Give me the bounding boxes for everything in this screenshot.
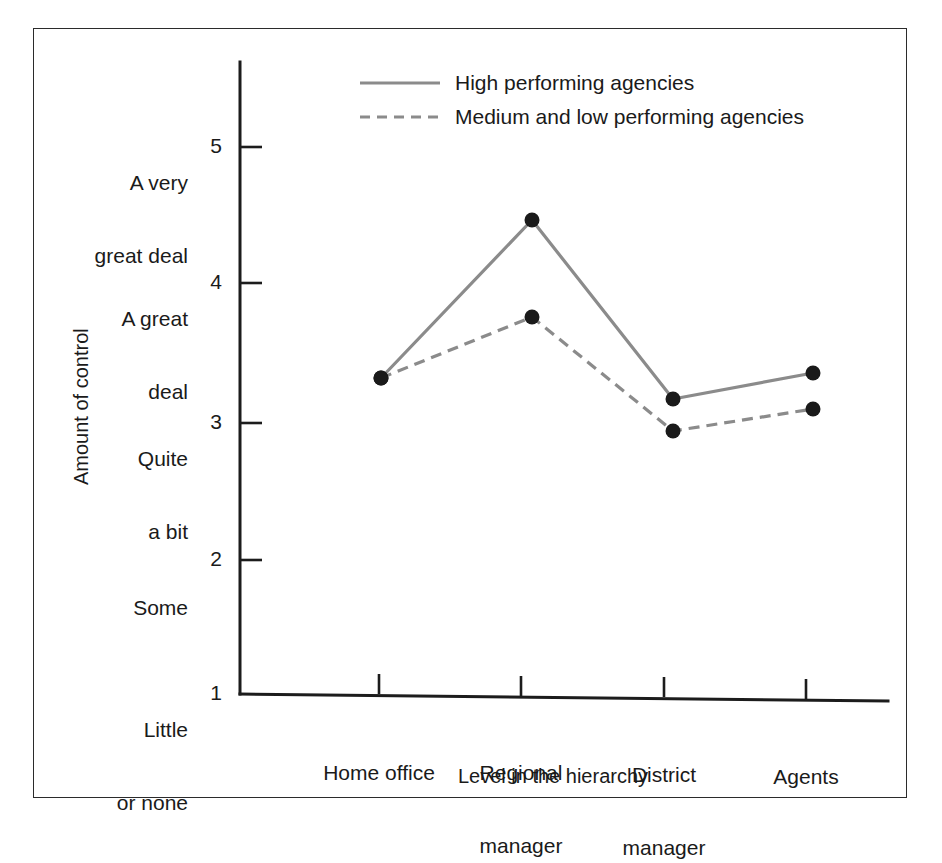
y-category-line1: A very — [38, 171, 188, 195]
legend-label-high-performing: High performing agencies — [455, 71, 694, 95]
x-axis-title: Level in the hierarchy — [353, 765, 753, 788]
y-category-line1: Quite — [38, 447, 188, 471]
y-category-line1: Some — [38, 596, 188, 620]
data-point-medium-low-1 — [525, 310, 540, 325]
y-category-label-little-or-none: Little or none — [38, 669, 188, 863]
y-category-line2: a bit — [38, 520, 188, 544]
data-point-high-2 — [666, 392, 681, 407]
data-point-medium-low-2 — [666, 424, 681, 439]
series-line-medium-low — [381, 317, 813, 431]
y-category-line1: Little — [38, 718, 188, 742]
data-point-high-3 — [806, 366, 821, 381]
y-tick-label-4: 4 — [196, 270, 222, 294]
data-point-medium-low-3 — [806, 402, 821, 417]
x-category-line2: manager — [564, 836, 764, 860]
y-axis-title: Amount of control — [70, 328, 93, 485]
y-category-line2: or none — [38, 791, 188, 815]
series-line-high — [381, 220, 813, 399]
legend-label-medium-low-performing: Medium and low performing agencies — [455, 105, 804, 129]
data-point-high-1 — [525, 213, 540, 228]
data-point-high-0 — [374, 371, 389, 386]
y-tick-label-1: 1 — [196, 681, 222, 705]
y-category-line1: A great — [38, 307, 188, 331]
y-tick-label-3: 3 — [196, 410, 222, 434]
y-tick-label-2: 2 — [196, 547, 222, 571]
y-tick-label-5: 5 — [196, 134, 222, 158]
x-axis-line — [240, 694, 888, 701]
y-category-label-some: Some — [38, 547, 188, 669]
